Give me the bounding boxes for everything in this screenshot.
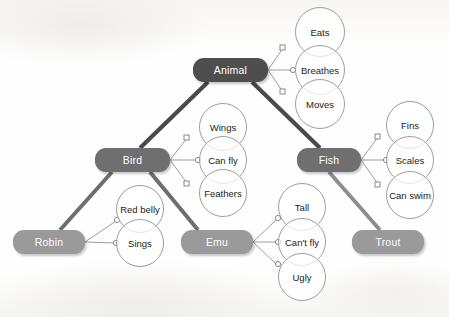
edge-animal-eats — [268, 48, 283, 70]
attribute-node-ugly[interactable]: Ugly — [278, 253, 326, 301]
attribute-node-sings[interactable]: Sings — [116, 219, 164, 267]
attribute-label: Can swim — [387, 190, 433, 201]
edge-fish-fins — [361, 137, 378, 160]
category-node-trout[interactable]: Trout — [352, 230, 424, 254]
attribute-label: Can fly — [206, 155, 240, 166]
attribute-label: Eats — [308, 27, 331, 38]
attribute-node-feathers[interactable]: Feathers — [199, 169, 247, 217]
attribute-label: Red belly — [118, 204, 162, 215]
attribute-label: Feathers — [202, 188, 244, 199]
joint-wings — [184, 135, 189, 140]
category-node-fish[interactable]: Fish — [297, 148, 361, 172]
attribute-label: Sings — [126, 238, 154, 249]
node-label: Trout — [375, 236, 400, 248]
attribute-node-moves[interactable]: Moves — [295, 79, 345, 129]
edge-emu-ugly — [253, 242, 277, 265]
attribute-label: Tall — [293, 202, 311, 213]
edge-bird-feathers — [170, 160, 187, 183]
joint-fins — [375, 134, 380, 139]
attribute-label: Moves — [304, 99, 336, 110]
edge-robin-sings — [85, 242, 115, 243]
attribute-label: Wings — [208, 122, 238, 133]
diagram-canvas: Eats Breathes Moves Wings Can fly Feathe… — [0, 0, 449, 317]
category-node-robin[interactable]: Robin — [13, 230, 85, 254]
joint-feathers — [184, 181, 189, 186]
attribute-label: Fins — [399, 120, 421, 131]
node-label: Emu — [206, 236, 228, 248]
attribute-node-can-swim[interactable]: Can swim — [386, 171, 434, 219]
edge-emu-tall — [253, 219, 277, 242]
category-node-animal[interactable]: Animal — [193, 58, 268, 82]
category-node-bird[interactable]: Bird — [95, 148, 170, 172]
attribute-label: Ugly — [290, 272, 313, 283]
edge-fish-canswim — [361, 160, 378, 184]
attribute-label: Scales — [394, 155, 427, 166]
joint-canswim — [375, 182, 380, 187]
edge-bird-wings — [170, 138, 187, 160]
node-label: Robin — [35, 236, 63, 248]
node-label: Fish — [319, 154, 340, 166]
attribute-label: Breathes — [299, 65, 341, 76]
node-label: Animal — [214, 64, 247, 76]
edge-robin-redbelly — [85, 221, 116, 242]
node-label: Bird — [123, 154, 142, 166]
attribute-label: Can't fly — [283, 237, 321, 248]
joint-eats — [280, 45, 285, 50]
category-node-emu[interactable]: Emu — [181, 230, 253, 254]
joint-moves — [280, 89, 285, 94]
